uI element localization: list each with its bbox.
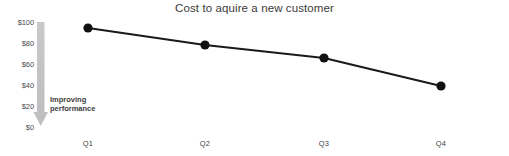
data-point-q4[interactable] xyxy=(436,81,445,90)
plot-area xyxy=(0,0,509,156)
data-line xyxy=(88,28,441,86)
annotation-line-1: Improving xyxy=(50,95,120,104)
chart-container: Cost to aquire a new customer $100 $80 $… xyxy=(0,0,509,156)
data-point-q3[interactable] xyxy=(319,53,328,62)
improving-performance-arrow xyxy=(34,22,49,126)
x-tick-label-q4: Q4 xyxy=(421,139,461,148)
x-tick-label-q1: Q1 xyxy=(68,139,108,148)
improving-performance-label: Improving performance xyxy=(50,95,120,114)
x-tick-label-q3: Q3 xyxy=(304,139,344,148)
data-point-q1[interactable] xyxy=(83,23,92,32)
x-tick-label-q2: Q2 xyxy=(185,139,225,148)
annotation-line-2: performance xyxy=(50,104,120,113)
data-point-q2[interactable] xyxy=(200,40,209,49)
